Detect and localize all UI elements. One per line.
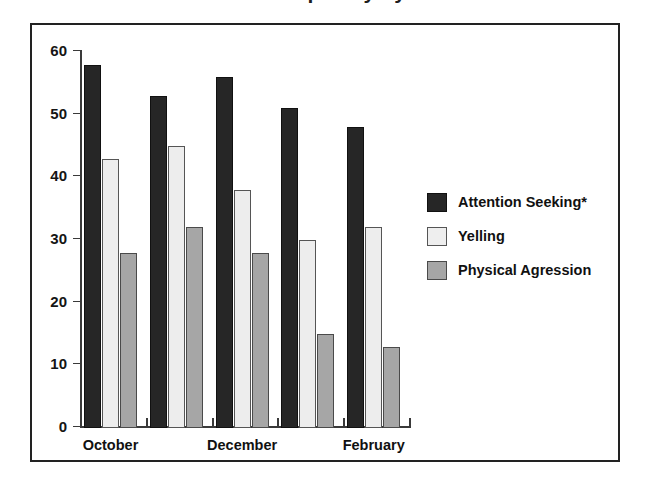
y-axis-tick-label: 60 bbox=[37, 42, 67, 59]
y-axis-tick bbox=[73, 175, 81, 176]
chart-title-clip: Behavior Frequency by Month bbox=[0, 0, 646, 13]
bar bbox=[365, 227, 382, 428]
x-axis-category-label: October bbox=[83, 437, 139, 453]
legend-item: Physical Agression bbox=[427, 255, 617, 285]
chart-legend: Attention Seeking*YellingPhysical Agress… bbox=[427, 187, 617, 289]
bar bbox=[102, 159, 119, 428]
legend-swatch-icon bbox=[427, 261, 447, 280]
bar bbox=[150, 96, 167, 428]
y-axis-tick-label: 20 bbox=[37, 292, 67, 309]
x-axis-tick bbox=[343, 418, 345, 428]
bar bbox=[216, 77, 233, 428]
bar bbox=[252, 253, 269, 428]
legend-item-label: Physical Agression bbox=[458, 262, 591, 278]
bar bbox=[186, 227, 203, 428]
legend-item-label: Yelling bbox=[458, 228, 505, 244]
x-axis-category-label: December bbox=[207, 437, 277, 453]
bar bbox=[281, 108, 298, 428]
bar bbox=[347, 127, 364, 428]
x-axis-tick bbox=[146, 418, 148, 428]
y-axis-tick-label: 0 bbox=[37, 418, 67, 435]
legend-item: Yelling bbox=[427, 221, 617, 251]
y-axis-tick bbox=[73, 363, 81, 364]
legend-swatch-icon bbox=[427, 227, 447, 246]
y-axis-tick-label: 30 bbox=[37, 230, 67, 247]
legend-item-label: Attention Seeking* bbox=[458, 194, 587, 210]
x-axis-tick bbox=[277, 418, 279, 428]
x-axis-tick bbox=[409, 418, 411, 428]
y-axis-tick-label: 50 bbox=[37, 104, 67, 121]
chart-title: Behavior Frequency by Month bbox=[0, 0, 646, 4]
x-axis-tick bbox=[212, 418, 214, 428]
y-axis-tick bbox=[73, 426, 81, 427]
bar bbox=[234, 190, 251, 428]
y-axis-tick bbox=[73, 50, 81, 51]
legend-swatch-icon bbox=[427, 193, 447, 212]
bar bbox=[299, 240, 316, 428]
y-axis-tick-label: 40 bbox=[37, 167, 67, 184]
bar bbox=[317, 334, 334, 428]
y-axis-tick bbox=[73, 238, 81, 239]
chart-frame: 0102030405060 OctoberDecemberFebruary At… bbox=[30, 23, 620, 462]
bar bbox=[84, 65, 101, 428]
bar bbox=[120, 253, 137, 428]
y-axis-line bbox=[80, 50, 82, 428]
y-axis-tick bbox=[73, 301, 81, 302]
x-axis-category-label: February bbox=[343, 437, 405, 453]
y-axis-tick-label: 10 bbox=[37, 355, 67, 372]
bar bbox=[383, 347, 400, 428]
legend-item: Attention Seeking* bbox=[427, 187, 617, 217]
bar bbox=[168, 146, 185, 428]
y-axis-tick bbox=[73, 113, 81, 114]
